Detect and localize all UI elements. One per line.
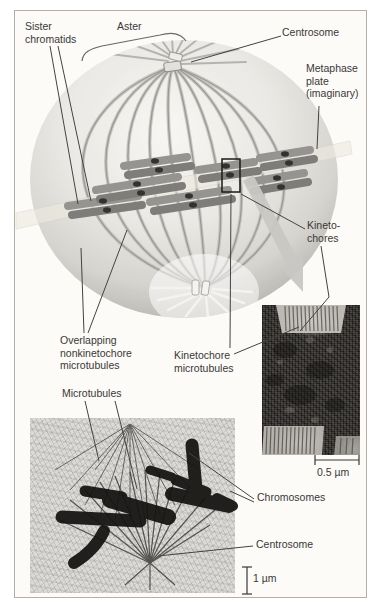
label-kinetochore-microtubules: Kinetochore microtubules <box>174 349 234 374</box>
label-sister-chromatids: Sister chromatids <box>25 20 76 45</box>
scale-bar-tem-shape <box>315 455 359 465</box>
label-microtubules: Microtubules <box>62 387 122 400</box>
spindle-micrograph-detail <box>55 424 233 590</box>
tem-detail-overlay <box>262 305 360 455</box>
label-metaphase-plate: Metaphase plate (imaginary) <box>306 62 359 100</box>
label-aster: Aster <box>117 20 142 33</box>
scale-bar-lm-shape <box>242 567 252 594</box>
scale-bar-lm-label: 1 µm <box>253 572 277 584</box>
label-overlapping-nonkinetochore-microtubules: Overlapping nonkinetochore microtubules <box>60 334 132 372</box>
figure-metaphase-spindle: Sister chromatids Aster Centrosome Metap… <box>0 0 381 611</box>
label-centrosome-top: Centrosome <box>282 26 339 39</box>
label-kinetochores: Kineto- chores <box>307 219 340 244</box>
scale-bar-tem-label: 0.5 µm <box>317 466 349 478</box>
label-centrosome-bottom: Centrosome <box>256 538 313 551</box>
label-chromosomes: Chromosomes <box>257 491 325 504</box>
